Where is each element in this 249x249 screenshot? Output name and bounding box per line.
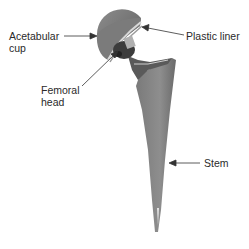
label-stem: Stem [204, 157, 229, 169]
arrow-acetabular-cup-icon [90, 33, 97, 39]
arrow-plastic-liner-icon [142, 25, 149, 32]
arrow-stem-icon [169, 160, 176, 166]
hip-implant-diagram: Acetabular cup Femoral head Plastic line… [0, 0, 249, 249]
label-acetabular-cup: Acetabular cup [9, 30, 59, 54]
stem-shape [136, 58, 176, 232]
label-plastic-liner: Plastic liner [186, 30, 240, 42]
label-femoral-head: Femoral head [41, 84, 80, 108]
